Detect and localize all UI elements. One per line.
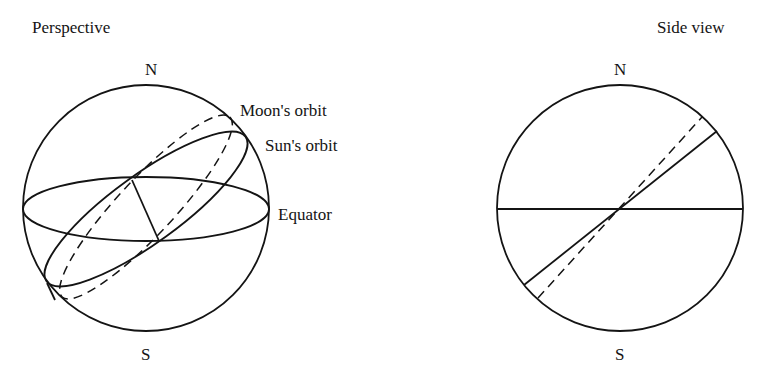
equator-ellipse (23, 177, 269, 241)
north-label: N (145, 60, 157, 79)
celestial-orbits-diagram: Perspective N S Moon's orbit Sun's orbit… (0, 0, 770, 373)
south-label: S (141, 345, 150, 364)
side-view: Side view N S (497, 18, 743, 364)
sun-orbit-ellipse (27, 109, 266, 309)
inclination-segment (132, 180, 159, 241)
moon-orbit-label: Moon's orbit (240, 101, 327, 120)
sun-orbit-label: Sun's orbit (265, 136, 338, 155)
south-label-side: S (615, 345, 624, 364)
perspective-view: Perspective N S Moon's orbit Sun's orbit… (23, 18, 338, 364)
side-view-title: Side view (657, 18, 725, 37)
equator-label: Equator (278, 205, 332, 224)
perspective-title: Perspective (32, 18, 110, 37)
north-label-side: N (614, 60, 626, 79)
moon-orbit-line (538, 117, 702, 298)
moon-orbit-ellipse (42, 98, 251, 316)
